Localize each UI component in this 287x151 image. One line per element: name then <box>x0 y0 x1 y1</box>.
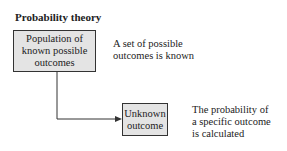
desc-line: The probability of <box>192 104 271 116</box>
node-line: outcome <box>124 120 165 132</box>
population-description: A set of possible outcomes is known <box>113 38 194 62</box>
desc-line: is calculated <box>192 128 271 140</box>
node-line: known possible <box>22 45 88 57</box>
unknown-outcome-node: Unknown outcome <box>122 103 168 136</box>
desc-line: A set of possible <box>113 38 194 50</box>
desc-line: a specific outcome <box>192 116 271 128</box>
node-line: Population of <box>22 33 88 45</box>
node-line: Unknown <box>124 108 165 120</box>
arrowhead-icon <box>115 116 122 122</box>
node-line: outcomes <box>22 57 88 69</box>
population-node: Population of known possible outcomes <box>13 30 96 72</box>
desc-line: outcomes is known <box>113 50 194 62</box>
unknown-outcome-description: The probability of a specific outcome is… <box>192 104 271 140</box>
